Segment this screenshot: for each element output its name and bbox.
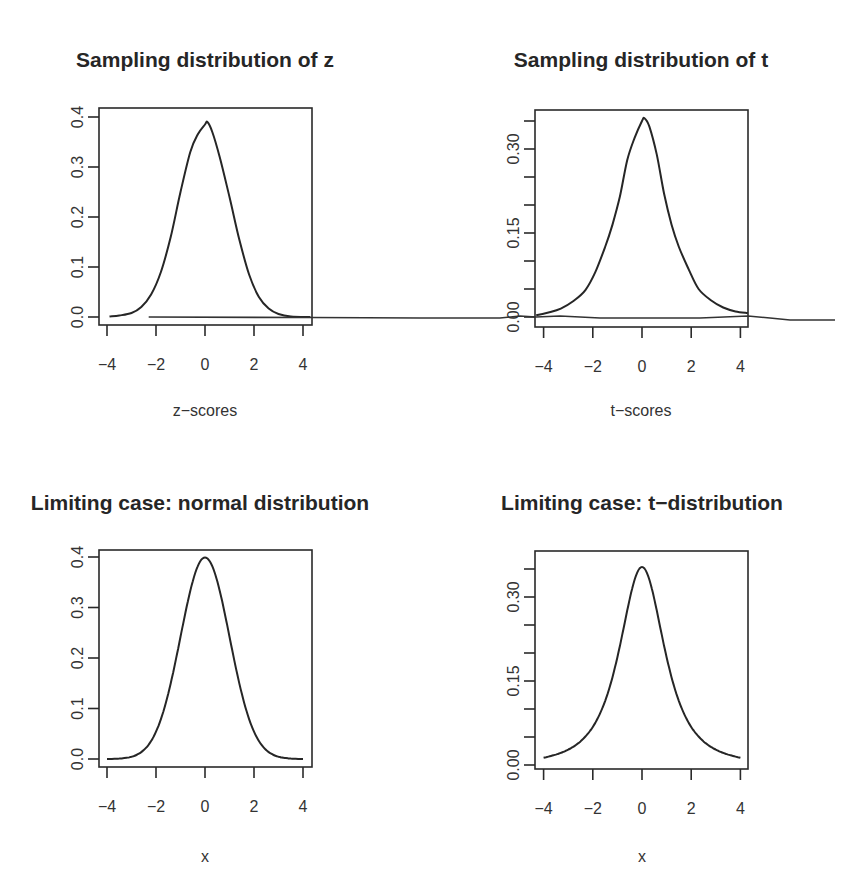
y-tick-label: 0.15 — [505, 665, 522, 696]
y-axis: 0.00.10.20.30.4 — [69, 546, 100, 770]
figure: Sampling distribution of z 0.00.10.20.30… — [0, 0, 861, 881]
density-curve — [107, 558, 303, 759]
x-axis-label: t−scores — [611, 402, 672, 419]
panel-title: Limiting case: t−distribution — [501, 491, 783, 514]
y-tick-label: 0.00 — [505, 749, 522, 780]
x-tick-label: 0 — [638, 358, 647, 375]
x-tick-label: 0 — [638, 800, 647, 817]
x-axis-label: x — [638, 848, 646, 865]
panel-title: Sampling distribution of t — [514, 48, 768, 71]
panel-sampling-z: Sampling distribution of z 0.00.10.20.30… — [69, 48, 334, 419]
y-tick-label: 0.1 — [69, 256, 86, 278]
x-tick-label: 4 — [299, 356, 308, 373]
y-tick-label: 0.1 — [69, 697, 86, 719]
panel-title: Sampling distribution of z — [76, 48, 334, 71]
density-curve — [536, 118, 748, 316]
y-tick-label: 0.30 — [505, 581, 522, 612]
x-tick-label: 4 — [299, 798, 308, 815]
plot-frame — [99, 550, 312, 767]
density-curve — [110, 122, 311, 317]
y-axis: 0.000.150.30 — [505, 569, 536, 781]
x-axis: −4−2024 — [98, 767, 308, 815]
panel-sampling-t: Sampling distribution of t 0.000.150.30 … — [505, 48, 769, 419]
x-axis: −4−2024 — [534, 327, 744, 375]
y-tick-label: 0.2 — [69, 206, 86, 228]
x-tick-label: −4 — [534, 800, 552, 817]
x-axis-label: z−scores — [173, 402, 237, 419]
x-tick-label: 2 — [250, 356, 259, 373]
x-tick-label: 0 — [201, 798, 210, 815]
x-tick-label: −4 — [98, 356, 116, 373]
x-tick-label: −2 — [584, 358, 602, 375]
x-axis: −4−2024 — [98, 325, 308, 373]
plot-frame — [99, 108, 312, 325]
y-tick-label: 0.2 — [69, 647, 86, 669]
y-axis: 0.00.10.20.30.4 — [69, 106, 100, 328]
unclipped-baseline-line — [149, 316, 835, 320]
x-tick-label: 2 — [250, 798, 259, 815]
y-tick-label: 0.0 — [69, 306, 86, 328]
y-axis: 0.000.150.30 — [505, 121, 536, 333]
x-tick-label: −2 — [584, 800, 602, 817]
x-tick-label: −2 — [147, 798, 165, 815]
panel-limiting-normal: Limiting case: normal distribution 0.00.… — [31, 491, 369, 865]
x-tick-label: 2 — [687, 358, 696, 375]
panel-title: Limiting case: normal distribution — [31, 491, 369, 514]
y-tick-label: 0.3 — [69, 156, 86, 178]
y-tick-label: 0.4 — [69, 106, 86, 128]
y-tick-label: 0.0 — [69, 748, 86, 770]
x-tick-label: −4 — [534, 358, 552, 375]
y-tick-label: 0.15 — [505, 217, 522, 248]
y-tick-label: 0.4 — [69, 546, 86, 568]
x-axis-label: x — [201, 848, 209, 865]
x-tick-label: −2 — [147, 356, 165, 373]
x-tick-label: −4 — [98, 798, 116, 815]
x-tick-label: 4 — [736, 800, 745, 817]
x-tick-label: 0 — [201, 356, 210, 373]
density-curve — [544, 567, 741, 758]
x-tick-label: 2 — [687, 800, 696, 817]
x-axis: −4−2024 — [534, 769, 744, 817]
panel-limiting-t: Limiting case: t−distribution 0.000.150.… — [501, 491, 783, 865]
x-tick-label: 4 — [736, 358, 745, 375]
y-tick-label: 0.30 — [505, 133, 522, 164]
y-tick-label: 0.3 — [69, 596, 86, 618]
plot-frame — [535, 110, 748, 327]
plot-frame — [535, 551, 748, 769]
